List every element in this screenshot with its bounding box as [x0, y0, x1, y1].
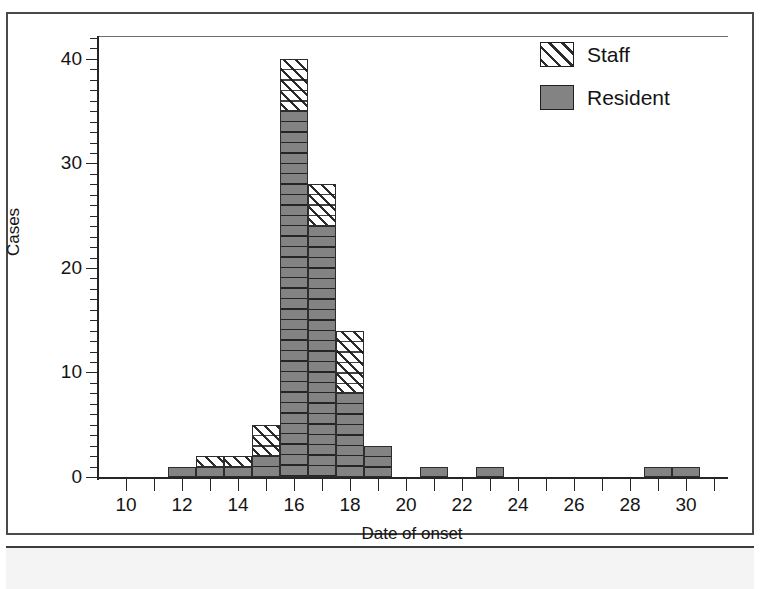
bar-stack: [252, 425, 280, 477]
x-axis-line: [97, 477, 728, 479]
y-tick: [90, 456, 97, 457]
bar-segment-staff: [308, 184, 336, 226]
y-tick: [90, 258, 97, 259]
bar-segment-resident: [336, 393, 364, 477]
y-tick: [90, 435, 97, 436]
y-tick: [90, 101, 97, 102]
x-tick: [126, 479, 127, 491]
y-tick: [90, 153, 97, 154]
bar-stack: [476, 467, 504, 477]
bar-segment-resident: [168, 467, 196, 477]
y-tick: [90, 90, 97, 91]
bar-segment-resident: [252, 456, 280, 477]
x-axis-title: Date of onset: [361, 524, 462, 544]
x-tick-label: 10: [115, 494, 136, 516]
x-tick: [574, 479, 575, 491]
x-tick: [602, 479, 603, 491]
x-tick-label: 26: [563, 494, 584, 516]
x-tick: [378, 479, 379, 491]
bar-stack: [308, 184, 336, 477]
y-tick-label-text: 10: [61, 361, 82, 383]
figure-page: 010203040 1012141618202224262830 Cases D…: [0, 0, 764, 589]
x-tick: [266, 479, 267, 491]
legend-label-staff: Staff: [587, 43, 630, 67]
y-tick: [90, 122, 97, 123]
y-tick: [90, 467, 97, 468]
x-tick: [686, 479, 687, 491]
y-tick: [86, 268, 97, 269]
y-tick: [90, 320, 97, 321]
bar-segment-resident: [476, 467, 504, 477]
x-tick: [406, 479, 407, 491]
x-tick: [630, 479, 631, 491]
y-axis-line: [97, 36, 99, 480]
x-tick: [546, 479, 547, 491]
bar-segment-staff: [280, 59, 308, 111]
bar-segment-resident: [672, 467, 700, 477]
bar-segment-resident: [196, 467, 224, 477]
y-tick: [86, 163, 97, 164]
y-tick: [90, 331, 97, 332]
x-tick: [462, 479, 463, 491]
legend-item-resident: Resident: [540, 85, 670, 110]
y-tick: [90, 69, 97, 70]
y-tick: [90, 38, 97, 39]
x-tick-label: 20: [395, 494, 416, 516]
y-tick: [90, 341, 97, 342]
y-tick: [90, 289, 97, 290]
y-tick: [90, 184, 97, 185]
x-tick-label: 14: [227, 494, 248, 516]
y-tick-label-text: 20: [61, 257, 82, 279]
bar-segment-resident: [364, 446, 392, 477]
legend-swatch-resident-icon: [540, 85, 574, 110]
y-tick: [90, 278, 97, 279]
x-tick: [182, 479, 183, 491]
y-tick: [90, 393, 97, 394]
bar-stack: [672, 467, 700, 477]
x-tick: [658, 479, 659, 491]
bar-chart: 010203040 1012141618202224262830 Cases D…: [0, 0, 764, 589]
y-tick: [90, 362, 97, 363]
y-tick: [86, 59, 97, 60]
legend-label-resident: Resident: [587, 86, 670, 110]
y-axis-title: Cases: [4, 208, 24, 256]
y-tick: [90, 205, 97, 206]
y-tick: [90, 132, 97, 133]
y-tick: [90, 352, 97, 353]
bar-segment-resident: [280, 111, 308, 477]
x-tick: [294, 479, 295, 491]
plot-top-rule: [97, 36, 728, 37]
bar-stack: [364, 446, 392, 477]
y-tick: [90, 48, 97, 49]
x-tick: [350, 479, 351, 491]
y-tick: [90, 237, 97, 238]
x-tick: [154, 479, 155, 491]
x-tick-label: 22: [451, 494, 472, 516]
x-tick-label: 28: [619, 494, 640, 516]
bar-segment-staff: [252, 425, 280, 456]
bar-segment-staff: [196, 456, 224, 466]
y-tick: [90, 383, 97, 384]
y-tick: [90, 226, 97, 227]
bar-segment-resident: [308, 226, 336, 477]
y-tick: [90, 299, 97, 300]
bar-segment-resident: [224, 467, 252, 477]
bar-segment-resident: [644, 467, 672, 477]
legend-item-staff: Staff: [540, 42, 670, 67]
bar-stack: [644, 467, 672, 477]
x-tick: [434, 479, 435, 491]
y-tick: [90, 216, 97, 217]
bar-stack: [224, 456, 252, 477]
y-tick: [90, 446, 97, 447]
y-tick-label-text: 30: [61, 152, 82, 174]
y-tick: [86, 477, 97, 478]
y-tick: [90, 247, 97, 248]
bar-segment-resident: [420, 467, 448, 477]
y-tick: [90, 414, 97, 415]
y-tick: [90, 111, 97, 112]
x-tick-label: 18: [339, 494, 360, 516]
y-tick: [90, 174, 97, 175]
x-tick: [322, 479, 323, 491]
y-tick: [90, 80, 97, 81]
bar-segment-staff: [224, 456, 252, 466]
